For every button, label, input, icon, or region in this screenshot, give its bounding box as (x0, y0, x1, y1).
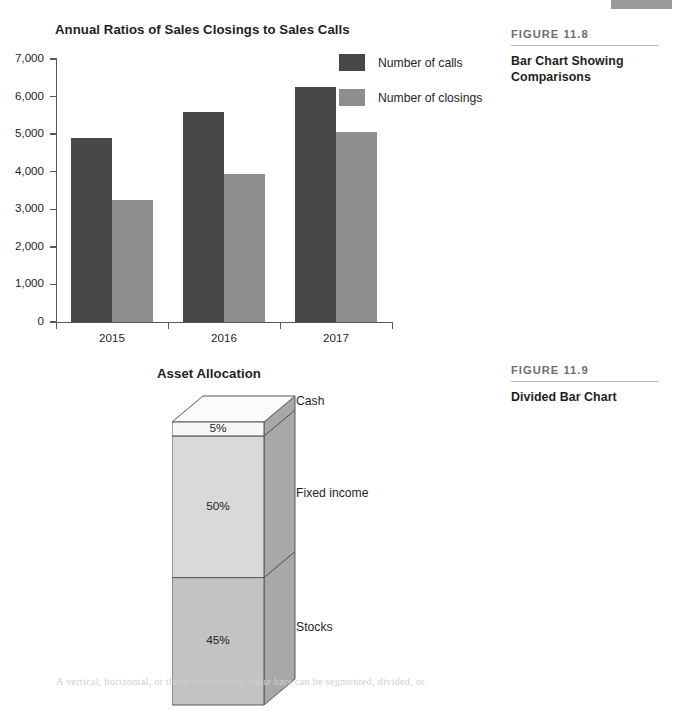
figure-118-sidebar: FIGURE 11.8 Bar Chart Showing Comparison… (511, 28, 663, 86)
y-axis-label: 2,000 (0, 239, 44, 252)
page-bleed-tab (611, 0, 672, 9)
legend-swatch-icon (339, 54, 365, 71)
divided-bar-label-stocks: Stocks (296, 620, 333, 634)
divided-bar-label-fixed-income: Fixed income (296, 486, 368, 500)
y-axis-label: 4,000 (0, 164, 44, 177)
legend-item: Number of closings (339, 89, 482, 106)
bar-chart-figure: Annual Ratios of Sales Closings to Sales… (0, 0, 505, 350)
divided-bar-percent-cash: 5% (172, 421, 264, 435)
divided-bar-title: Asset Allocation (157, 366, 261, 381)
bar-2015-closings (112, 200, 153, 322)
divided-bar-percent-fixed-income: 50% (172, 499, 264, 513)
x-axis-tick (168, 322, 169, 329)
bar-2017-closings (336, 132, 377, 322)
bar-2017-calls (295, 87, 336, 322)
y-axis-label: 0 (0, 314, 44, 327)
y-axis-label: 7,000 (0, 51, 44, 64)
figure-118-caption: Bar Chart Showing Comparisons (511, 46, 663, 86)
divided-bar-side-face-fixed-income (264, 410, 295, 578)
x-axis-tick (56, 322, 57, 329)
figure-119-sidebar: FIGURE 11.9 Divided Bar Chart (511, 364, 663, 405)
bar-chart-title: Annual Ratios of Sales Closings to Sales… (55, 22, 350, 37)
x-axis-label-2015: 2015 (67, 331, 157, 344)
legend-swatch-icon (339, 89, 365, 106)
x-axis-tick (392, 322, 393, 329)
y-axis-label: 5,000 (0, 126, 44, 139)
figure-119-number: FIGURE 11.9 (511, 364, 663, 381)
body-paragraph: A vertical, horizontal, or three-dimensi… (56, 676, 476, 687)
divided-bar-3d: 5%50%45%CashFixed incomeStocks (172, 392, 312, 707)
divided-bar-3d-svg (172, 392, 322, 710)
figure-119-caption: Divided Bar Chart (511, 382, 663, 405)
bar-2016-closings (224, 174, 265, 322)
divided-bar-percent-stocks: 45% (172, 633, 264, 647)
legend-label: Number of calls (378, 56, 463, 70)
y-axis-label: 6,000 (0, 89, 44, 102)
bar-2016-calls (183, 112, 224, 322)
y-axis-label: 1,000 (0, 276, 44, 289)
divided-bar-figure: Asset Allocation 5%50%45%CashFixed incom… (0, 355, 505, 665)
figure-118-number: FIGURE 11.8 (511, 28, 663, 45)
x-axis-line (56, 322, 392, 323)
bar-chart-legend: Number of callsNumber of closings (339, 54, 482, 124)
legend-label: Number of closings (378, 91, 482, 105)
bar-2015-calls (71, 138, 112, 322)
y-axis-label: 3,000 (0, 201, 44, 214)
x-axis-tick (280, 322, 281, 329)
divided-bar-label-cash: Cash (296, 394, 324, 408)
legend-item: Number of calls (339, 54, 482, 71)
x-axis-label-2016: 2016 (179, 331, 269, 344)
x-axis-label-2017: 2017 (291, 331, 381, 344)
